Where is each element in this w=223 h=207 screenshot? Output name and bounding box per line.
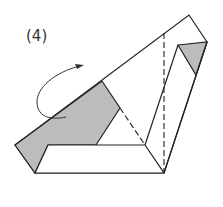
origami-diagram xyxy=(0,0,223,207)
bottom-strip xyxy=(35,145,164,173)
arrow-head-icon xyxy=(75,64,84,69)
